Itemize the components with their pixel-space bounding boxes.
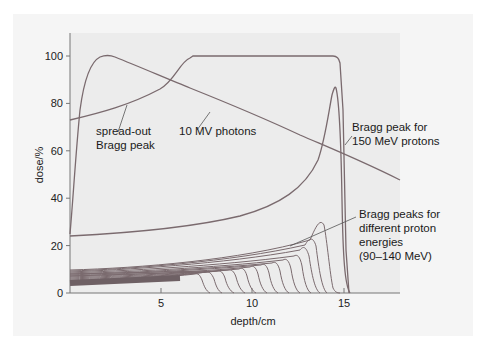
y-axis-title: dose/%	[33, 146, 45, 183]
y-tick-80: 80	[51, 97, 63, 109]
y-tick-100: 100	[45, 50, 63, 62]
x-tick-10: 10	[246, 297, 258, 309]
y-tick-20: 20	[51, 240, 63, 252]
y-ticks	[66, 56, 70, 293]
annot-150-line1: Bragg peak for	[352, 121, 428, 133]
y-tick-0: 0	[57, 287, 63, 299]
annot-sobp-line2: Bragg peak	[96, 139, 155, 151]
annot-multi-line2: different proton	[359, 222, 436, 234]
annot-150-line2: 150 MeV protons	[352, 135, 440, 147]
annot-sobp-line1: spread-out	[96, 125, 152, 137]
annot-multi-line1: Bragg peaks for	[359, 208, 440, 220]
y-tick-40: 40	[51, 192, 63, 204]
y-tick-60: 60	[51, 145, 63, 157]
x-tick-5: 5	[158, 297, 164, 309]
x-tick-labels: 5 10 15	[158, 297, 350, 309]
plot-area	[70, 33, 400, 293]
x-axis-title: depth/cm	[230, 315, 275, 327]
y-tick-labels: 0 20 40 60 80 100	[45, 50, 63, 299]
annot-multi-line3: energies	[359, 236, 403, 248]
chart-svg: 0 20 40 60 80 100 5 10 15 depth/cm dose/…	[0, 0, 493, 351]
x-tick-15: 15	[338, 297, 350, 309]
annot-photons: 10 MV photons	[179, 125, 257, 137]
annot-multi-line4: (90–140 MeV)	[359, 250, 432, 262]
